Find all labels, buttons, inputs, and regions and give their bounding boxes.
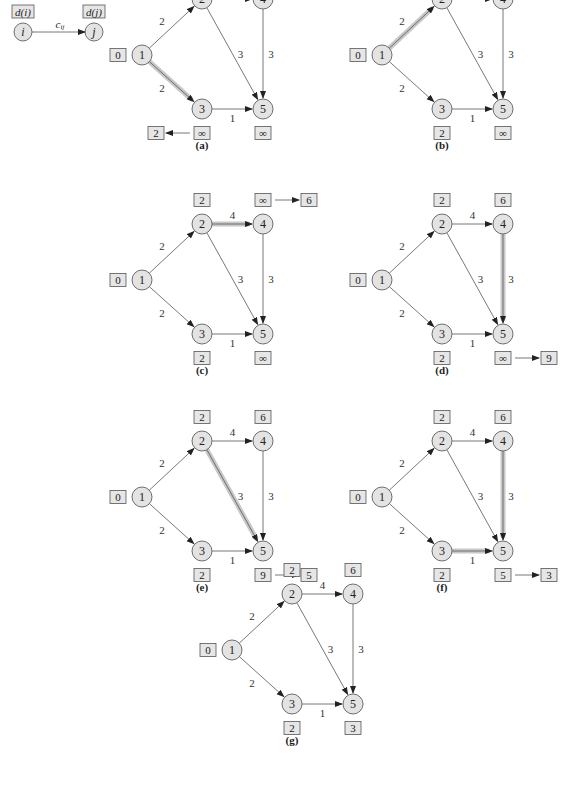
distance-label-2: 2 [434,411,450,424]
edge-1-2 [149,232,194,274]
node-3: 3 [432,541,452,561]
svg-text:∞: ∞ [259,127,267,139]
svg-text:1: 1 [139,490,145,504]
svg-text:2: 2 [439,434,445,448]
edge-cost-2-5: 3 [478,490,484,502]
svg-text:3: 3 [439,102,445,116]
edge-1-2 [149,449,194,491]
svg-text:4: 4 [260,0,266,6]
svg-text:5: 5 [500,569,506,581]
distance-label-5: 3 [345,722,361,735]
legend-edge-cost: cij [56,18,65,31]
edge-cost-2-5: 3 [478,48,484,60]
svg-text:3: 3 [350,722,356,734]
node-2: 2 [432,431,452,451]
edge-2-5 [447,8,498,100]
edge-cost-1-2: 2 [159,240,165,252]
node-5: 5 [493,99,513,119]
svg-text:2: 2 [439,569,445,581]
svg-text:3: 3 [199,544,205,558]
legend-dj-box: d(j) [83,5,105,19]
node-5: 5 [253,324,273,344]
distance-label-3: 2 [434,352,450,365]
svg-text:5: 5 [260,102,266,116]
edge-2-5 [447,233,498,325]
svg-text:3: 3 [289,697,295,711]
new-distance-4: 6 [301,194,317,207]
svg-text:5: 5 [500,102,506,116]
node-3: 3 [192,541,212,561]
panel-caption: (e) [196,581,209,594]
svg-text:4: 4 [500,434,506,448]
node-4: 4 [493,0,513,9]
edge-cost-1-2: 2 [399,240,405,252]
svg-text:4: 4 [500,0,506,6]
svg-text:2: 2 [199,411,205,423]
svg-text:i: i [21,25,24,39]
svg-text:3: 3 [199,327,205,341]
svg-text:2: 2 [199,194,205,206]
svg-text:2: 2 [199,0,205,6]
edge-cost-1-2: 2 [159,457,165,469]
distance-label-1: 0 [200,644,216,657]
node-3: 3 [432,324,452,344]
node-2: 2 [432,214,452,234]
distance-label-5: ∞ [495,352,511,365]
edge-1-3 [389,504,433,544]
svg-text:2: 2 [439,194,445,206]
svg-text:1: 1 [229,643,235,657]
panel-caption: (d) [435,364,449,377]
distance-label-4: 6 [345,564,361,577]
edge-2-5 [297,603,348,695]
svg-text:∞: ∞ [259,352,267,364]
svg-text:5: 5 [500,544,506,558]
node-4: 4 [253,431,273,451]
distance-label-5: ∞ [255,127,271,140]
node-1: 1 [132,270,152,290]
edge-cost-1-3: 2 [159,524,165,536]
node-1: 1 [222,640,242,660]
edge-1-2 [389,449,434,491]
distance-label-3: ∞ [194,127,210,140]
distance-label-4: 6 [255,411,271,424]
new-distance-3: 2 [148,127,164,140]
svg-text:5: 5 [350,697,356,711]
edge-cost-2-4: 4 [320,579,326,591]
distance-label-5: ∞ [495,127,511,140]
distance-label-1: 0 [350,491,366,504]
svg-text:∞: ∞ [259,194,267,206]
edge-cost-4-5: 3 [508,490,514,502]
panel-g: 2243131022324653(g) [200,564,364,748]
edge-1-2 [239,602,284,644]
svg-text:6: 6 [260,411,266,423]
distance-label-3: 2 [434,569,450,582]
node-5: 5 [493,324,513,344]
distance-label-5: ∞ [255,352,271,365]
edge-cost-1-3: 2 [159,82,165,94]
new-distance-5: 3 [541,569,557,582]
node-1: 1 [372,45,392,65]
edge-cost-3-5: 1 [320,707,326,719]
node-1: 1 [372,487,392,507]
distance-label-2: 2 [434,194,450,207]
svg-text:6: 6 [500,411,506,423]
distance-label-2: 2 [194,411,210,424]
distance-label-2: 2 [194,194,210,207]
distance-label-2: 2 [284,564,300,577]
svg-text:2: 2 [199,217,205,231]
edge-cost-1-3: 2 [399,82,405,94]
svg-text:9: 9 [546,352,552,364]
distance-label-5: 9 [255,569,271,582]
node-4: 4 [253,0,273,9]
distance-label-4: 6 [495,411,511,424]
node-5: 5 [493,541,513,561]
edge-1-2 [389,7,434,49]
svg-text:2: 2 [439,411,445,423]
edge-cost-4-5: 3 [508,273,514,285]
svg-text:5: 5 [260,544,266,558]
edge-cost-1-3: 2 [159,307,165,319]
edge-cost-1-3: 2 [249,677,255,689]
svg-text:1: 1 [379,48,385,62]
edge-2-5 [447,450,498,542]
edge-cost-4-5: 3 [508,48,514,60]
